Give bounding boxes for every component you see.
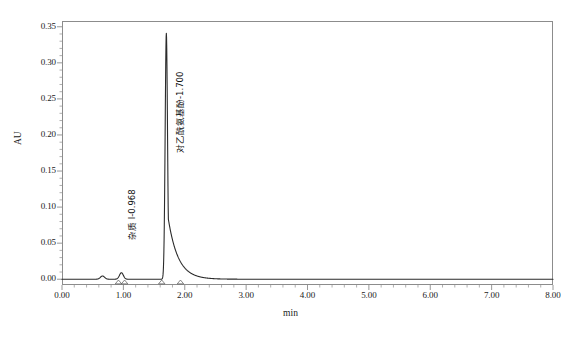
y-tick-label: 0.05 [26,238,56,247]
x-axis-title: min [0,308,581,318]
y-tick-label: 0.30 [26,58,56,67]
y-axis-minor-ticks [60,34,63,272]
peak-label-impurity-1: 杂质 I-0.968 [125,189,137,240]
y-tick-label: 0.25 [26,94,56,103]
x-tick-label: 4.00 [286,291,330,300]
signal-trace [62,33,553,279]
y-tick-label: 0.20 [26,130,56,139]
x-tick-label: 2.00 [163,291,207,300]
x-axis-tick-labels: 0.001.002.003.004.005.006.007.008.00 [0,291,581,305]
y-axis-major-ticks [57,27,62,279]
y-tick-label: 0.35 [26,22,56,31]
y-axis-title: AU [13,131,23,145]
x-tick-label: 0.00 [40,291,84,300]
peak-label-acetaminophen: 对乙酰氨基酚-1.700 [173,72,185,153]
x-tick-label: 5.00 [347,291,391,300]
y-tick-label: 0.10 [26,202,56,211]
y-tick-label: 0.00 [26,274,56,283]
x-tick-label: 6.00 [408,291,452,300]
x-tick-label: 7.00 [470,291,514,300]
x-tick-label: 8.00 [531,291,575,300]
x-tick-label: 1.00 [101,291,145,300]
peak-integration-markers [115,280,183,284]
x-tick-label: 3.00 [224,291,268,300]
y-tick-label: 0.15 [26,166,56,175]
chromatogram-screenshot: 0.000.050.100.150.200.250.300.35 0.001.0… [0,0,581,342]
